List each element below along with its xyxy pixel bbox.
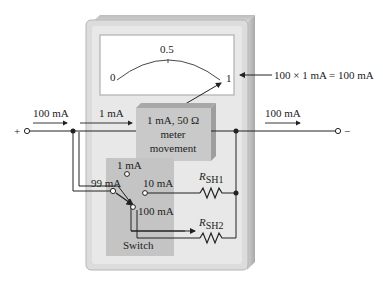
switch-pos-10ma: 10 mA [143,177,173,189]
minus-terminal-label: − [344,125,350,137]
switch-pos-100ma: 100 mA [138,205,174,217]
junction-right-mid [234,191,239,196]
plus-terminal[interactable] [24,128,29,133]
scale-mid: 0.5 [160,43,174,55]
switch-contact-10ma[interactable] [143,191,148,196]
shunt-current-label: 99 mA [91,177,121,189]
movement-line2: meter [160,128,185,140]
switch-contact-100ma[interactable] [131,205,136,210]
switch-pos-1ma: 1 mA [117,159,142,171]
switch-contact-1ma[interactable] [125,172,130,177]
meter-current-label: 1 mA [99,107,124,119]
junction-right-top [234,129,239,134]
scale-max: 1 [226,72,232,84]
switch-common-contact[interactable] [110,188,115,193]
switch-label: Switch [123,239,154,251]
scale-min: 0 [110,71,116,83]
movement-rating: 1 mA, 50 Ω [147,114,199,126]
movement-line3: movement [150,142,196,154]
minus-terminal[interactable] [335,128,340,133]
junction-left [71,129,76,134]
plus-terminal-label: + [14,125,20,137]
input-current-label: 100 mA [33,107,69,119]
full-scale-note: 100 × 1 mA = 100 mA [274,69,374,81]
output-current-label: 100 mA [265,107,301,119]
ammeter-diagram: 0 0.5 1 100 × 1 mA = 100 mA 1 mA, 50 Ω m… [0,0,383,283]
meter-movement: 1 mA, 50 Ω meter movement [136,103,216,161]
